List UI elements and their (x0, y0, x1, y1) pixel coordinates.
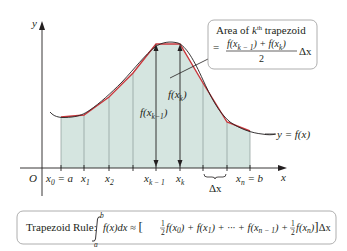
tick-label-xn: xn = b (235, 172, 264, 187)
tick-label-xk: xk (175, 172, 185, 187)
trapezoid-rule-diagram: y x O x0 = a x1 x2 xk − 1 xk xn = b Δx f… (0, 0, 347, 251)
half-denominator: 2 (161, 228, 165, 237)
tick-label-xk-1: xk − 1 (143, 172, 165, 187)
formula-label: Trapezoid Rule: (26, 221, 97, 233)
delta-x-label: Δx (209, 182, 222, 194)
half-numerator: 1 (161, 219, 165, 228)
formula-body: f(x)dx ≈ [ (103, 219, 143, 234)
callout-denominator: 2 (259, 53, 264, 64)
tick-label-x1: x1 (80, 172, 90, 187)
half-denominator-2: 2 (291, 228, 295, 237)
callout-equals: = (213, 41, 219, 53)
callout-title: Area of kth trapezoid (216, 24, 306, 36)
callout-delta-x: Δx (299, 45, 312, 57)
curve-label: y = f(x) (276, 128, 310, 141)
integral-lower: a (94, 240, 98, 249)
tick-label-x0: x0 = a (45, 172, 74, 187)
delta-x-brace (204, 174, 226, 179)
formula-last-term: f(xn)]Δx (296, 219, 331, 235)
x-axis-label: x (280, 171, 286, 183)
integral-upper: b (100, 211, 104, 220)
y-axis-label: y (31, 17, 37, 29)
y-axis-arrow-icon (39, 21, 45, 30)
origin-label: O (29, 172, 37, 184)
half-numerator-2: 1 (291, 219, 295, 228)
tick-label-x2: x2 (104, 172, 114, 187)
